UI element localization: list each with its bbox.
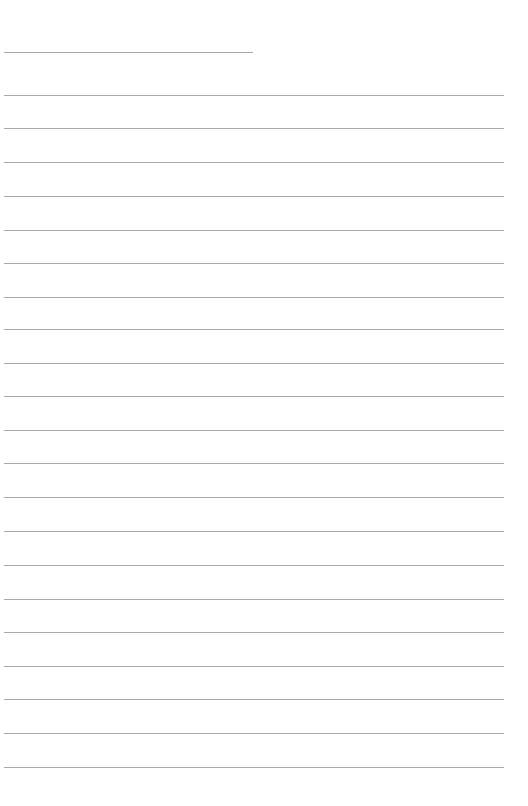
ruled-line xyxy=(4,767,504,768)
ruled-line xyxy=(4,396,504,397)
ruled-line xyxy=(4,430,504,431)
ruled-line xyxy=(4,599,504,600)
lined-paper-page xyxy=(0,0,528,806)
ruled-line xyxy=(4,699,504,700)
ruled-line xyxy=(4,297,504,298)
ruled-line xyxy=(4,230,504,231)
ruled-line xyxy=(4,162,504,163)
header-line xyxy=(4,52,253,53)
ruled-line xyxy=(4,497,504,498)
ruled-line xyxy=(4,263,504,264)
ruled-line xyxy=(4,666,504,667)
ruled-line xyxy=(4,733,504,734)
ruled-line xyxy=(4,329,504,330)
ruled-line xyxy=(4,363,504,364)
ruled-line xyxy=(4,463,504,464)
ruled-line xyxy=(4,95,504,96)
ruled-line xyxy=(4,632,504,633)
ruled-line xyxy=(4,531,504,532)
ruled-line xyxy=(4,565,504,566)
ruled-line xyxy=(4,128,504,129)
ruled-line xyxy=(4,196,504,197)
